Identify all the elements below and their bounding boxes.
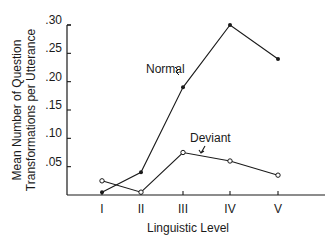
y-tick-label: .20 [45,70,62,84]
normal-series-label: Normal [146,62,185,76]
y-tick-label: .25 [45,41,62,55]
y-axis-title-line-1: Mean Number of Question [10,40,24,181]
filled-dot-marker-icon [100,190,104,194]
open-circle-marker-icon [100,179,104,183]
y-axis-title-line-2: Transformations per Utterance [24,29,38,192]
line-chart: Mean Number of Question Transformations … [0,0,331,242]
y-tick-label: .05 [45,155,62,169]
axes [67,25,325,195]
open-circle-marker-icon [181,150,185,154]
y-tick-label: .15 [45,98,62,112]
series-layer [100,23,280,194]
series-deviant [100,150,280,194]
x-tick-label: I [100,202,103,216]
x-tick-label: II [138,202,145,216]
filled-dot-marker-icon [139,170,143,174]
open-circle-marker-icon [139,190,143,194]
filled-dot-marker-icon [228,23,232,27]
x-axis-title: Linguistic Level [147,221,229,235]
y-tick-label: .30 [45,13,62,27]
x-tick-label: V [274,202,282,216]
deviant-label-arrow-icon [199,146,205,153]
filled-dot-marker-icon [276,57,280,61]
series-line [102,153,278,193]
x-tick-label: IV [224,202,235,216]
series-normal [100,23,280,194]
y-tick-label: .10 [45,126,62,140]
open-circle-marker-icon [228,159,232,163]
filled-dot-marker-icon [181,85,185,89]
deviant-series-label: Deviant [190,131,231,145]
x-tick-label: III [178,202,188,216]
open-circle-marker-icon [276,173,280,177]
